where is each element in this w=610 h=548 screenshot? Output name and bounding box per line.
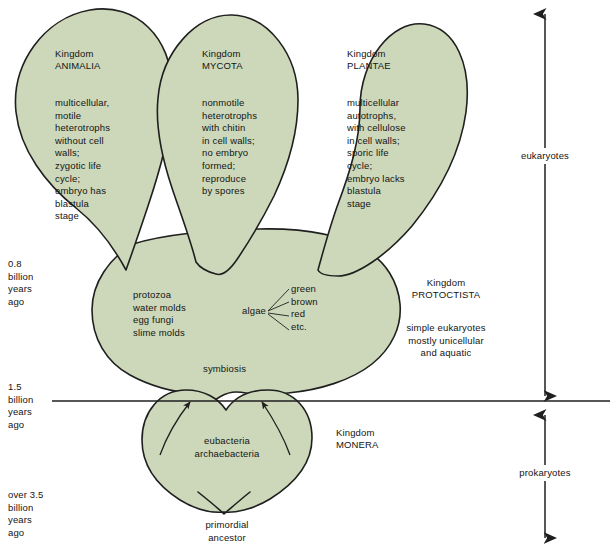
phylogenetic-tree-graphic <box>0 0 610 548</box>
mycota-name: MYCOTA <box>202 60 243 73</box>
plantae-description: multicellular autotrophs, with cellulose… <box>347 97 406 210</box>
algae-types-list: green brown red etc. <box>291 283 318 333</box>
protoctista-members-list: protozoa water molds egg fungi slime mol… <box>133 289 186 339</box>
diagram-canvas: Kingdom ANIMALIA multicellular, motile h… <box>0 0 610 548</box>
animalia-description: multicellular, motile heterotrophs witho… <box>55 97 110 223</box>
protoctista-name: PROTOCTISTA <box>366 289 526 302</box>
mycota-heading: Kingdom <box>202 48 241 61</box>
algae-label: algae <box>242 305 266 318</box>
protoctista-description: simple eukaryotes mostly unicellular and… <box>366 322 526 360</box>
primordial-ancestor-label: primordial ancestor <box>152 519 302 544</box>
protoctista-heading: Kingdom <box>366 277 526 290</box>
prokaryotes-axis-label: prokaryotes <box>503 467 587 480</box>
timeline-label-over-3-5-billion: over 3.5 billion years ago <box>8 489 44 539</box>
animalia-heading: Kingdom <box>55 48 94 61</box>
eukaryotes-axis-label: eukaryotes <box>505 150 585 163</box>
symbiosis-label: symbiosis <box>203 363 246 376</box>
timeline-label-1-5-billion: 1.5 billion years ago <box>8 381 33 431</box>
plantae-heading: Kingdom <box>347 48 386 61</box>
timeline-label-0-8-billion: 0.8 billion years ago <box>8 258 33 308</box>
plantae-name: PLANTAE <box>347 60 391 73</box>
mycota-description: nonmotile heterotrophs with chitin in ce… <box>202 97 257 198</box>
monera-heading: Kingdom <box>336 427 375 440</box>
monera-name: MONERA <box>336 439 379 452</box>
monera-members-list: eubacteria archaebacteria <box>152 435 302 460</box>
animalia-name: ANIMALIA <box>55 60 101 73</box>
